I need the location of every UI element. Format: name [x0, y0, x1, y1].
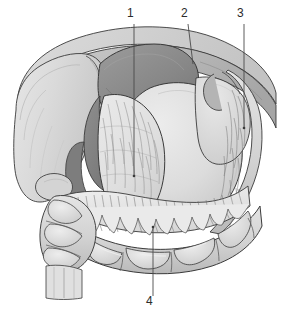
callout-label-2: 2 — [181, 7, 188, 19]
callout-label-4: 4 — [146, 295, 153, 307]
callout-label-1: 1 — [127, 7, 134, 19]
anatomy-illustration — [0, 0, 284, 315]
ascending-colon — [40, 196, 96, 300]
callout-label-3: 3 — [237, 7, 244, 19]
anatomical-figure: 1 2 3 4 — [0, 0, 284, 315]
